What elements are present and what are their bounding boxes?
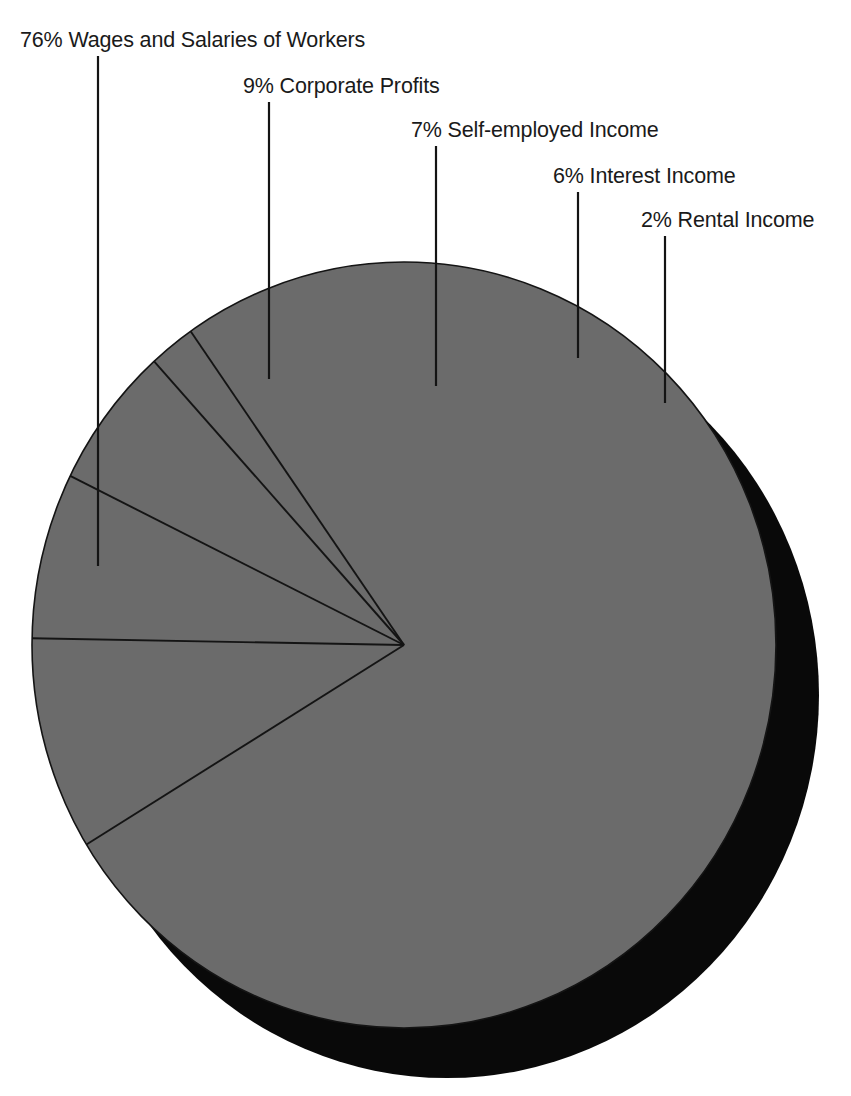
- slice-label-2: 9% Corporate Profits: [243, 76, 440, 98]
- slice-label-1: 76% Wages and Salaries of Workers: [20, 30, 365, 52]
- slice-label-4: 6% Interest Income: [553, 166, 736, 188]
- pie-chart-figure: 76% Wages and Salaries of Workers9% Corp…: [0, 0, 851, 1096]
- slice-label-5: 2% Rental Income: [641, 210, 814, 232]
- slice-label-3: 7% Self-employed Income: [411, 120, 659, 142]
